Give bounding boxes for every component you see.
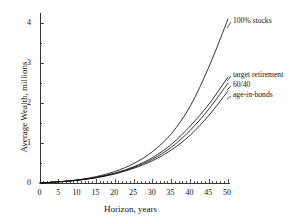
series-curves — [40, 19, 231, 183]
series-label-60-40: 60/40 — [233, 81, 250, 89]
xtick-label: 50 — [223, 189, 231, 197]
axes — [40, 13, 230, 183]
ytick-label: 0 — [27, 179, 31, 187]
xtick-label: 25 — [129, 189, 137, 197]
chart-figure: 4 3 2 1 0 0 5 10 15 20 25 30 35 40 45 50… — [0, 0, 307, 224]
xtick-label: 35 — [167, 189, 175, 197]
y-axis-title-wrapper: Average Wealth, millions — [13, 47, 31, 167]
xtick-label: 40 — [185, 189, 193, 197]
ytick-label: 4 — [27, 19, 31, 27]
xtick-label: 10 — [73, 189, 81, 197]
xtick-label: 5 — [56, 189, 60, 197]
xtick-label: 30 — [148, 189, 156, 197]
series-label-100-stocks: 100% stocks — [233, 17, 272, 25]
xtick-label: 45 — [204, 189, 212, 197]
y-axis-title: Average Wealth, millions — [19, 61, 29, 152]
xtick-label: 15 — [91, 189, 99, 197]
x-axis-title: Horizon, years — [104, 205, 157, 214]
xtick-label: 20 — [110, 189, 118, 197]
xtick-label: 0 — [37, 189, 41, 197]
series-label-target-retirement: target retirement — [233, 71, 283, 79]
series-label-age-in-bonds: age-in-bonds — [233, 91, 273, 99]
